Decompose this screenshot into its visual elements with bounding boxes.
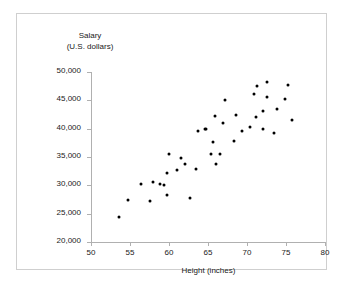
- data-point: [286, 84, 289, 87]
- y-axis-tick-label: 35,000: [57, 151, 81, 160]
- data-point: [266, 95, 269, 98]
- x-axis-tick: [130, 242, 131, 246]
- data-point: [205, 127, 208, 130]
- y-axis-title-line2: (U.S. dollars): [35, 41, 145, 52]
- x-axis-tick-label: 80: [321, 248, 330, 257]
- x-axis-title: Height (inches): [91, 266, 326, 275]
- data-point: [118, 215, 121, 218]
- data-point: [126, 198, 129, 201]
- y-axis-title-line1: Salary: [35, 30, 145, 41]
- data-point: [162, 184, 165, 187]
- x-axis-tick-label: 60: [165, 248, 174, 257]
- data-point: [214, 115, 217, 118]
- y-axis-tick: 50,000: [87, 72, 91, 73]
- y-axis-tick-label: 25,000: [57, 208, 81, 217]
- chart-figure-frame: Salary (U.S. dollars) 20,00025,00030,000…: [16, 13, 327, 270]
- data-point: [183, 162, 186, 165]
- data-point: [212, 141, 215, 144]
- data-point: [168, 152, 171, 155]
- y-axis-tick: 30,000: [87, 185, 91, 186]
- x-axis-tick: [286, 242, 287, 246]
- data-point: [149, 199, 152, 202]
- data-point: [194, 167, 197, 170]
- data-point: [175, 169, 178, 172]
- y-axis-tick-label: 45,000: [57, 94, 81, 103]
- x-axis-tick: [91, 242, 92, 246]
- data-point: [265, 80, 268, 83]
- scatter-plot-area: 20,00025,00030,00035,00040,00045,00050,0…: [91, 72, 325, 242]
- y-axis-tick-label: 30,000: [57, 179, 81, 188]
- data-point: [272, 132, 275, 135]
- y-axis-tick-label: 40,000: [57, 123, 81, 132]
- x-axis-tick: [208, 242, 209, 246]
- y-axis-tick: 25,000: [87, 214, 91, 215]
- y-axis-tick: 45,000: [87, 100, 91, 101]
- data-point: [240, 129, 243, 132]
- x-axis-tick-label: 55: [126, 248, 135, 257]
- x-axis-tick: [325, 242, 326, 246]
- data-point: [262, 128, 265, 131]
- data-point: [189, 197, 192, 200]
- data-point: [235, 113, 238, 116]
- y-axis-tick: 35,000: [87, 157, 91, 158]
- data-point: [210, 153, 213, 156]
- data-point: [151, 180, 154, 183]
- y-axis-tick-label: 50,000: [57, 66, 81, 75]
- data-point: [256, 84, 259, 87]
- data-point: [291, 119, 294, 122]
- x-axis-tick-label: 70: [243, 248, 252, 257]
- data-point: [224, 98, 227, 101]
- y-axis-tick-label: 20,000: [57, 236, 81, 245]
- x-axis-tick-label: 65: [204, 248, 213, 257]
- y-axis-tick: 40,000: [87, 129, 91, 130]
- y-axis-title: Salary (U.S. dollars): [35, 30, 145, 52]
- data-point: [221, 122, 224, 125]
- data-point: [196, 129, 199, 132]
- x-axis-tick: [169, 242, 170, 246]
- data-point: [261, 110, 264, 113]
- data-point: [254, 116, 257, 119]
- data-point: [166, 171, 169, 174]
- data-point: [232, 140, 235, 143]
- x-axis-tick-label: 75: [282, 248, 291, 257]
- data-point: [179, 157, 182, 160]
- data-point: [214, 162, 217, 165]
- data-point: [139, 182, 142, 185]
- x-axis-tick: [247, 242, 248, 246]
- data-point: [219, 152, 222, 155]
- data-point: [275, 108, 278, 111]
- x-axis-tick-label: 50: [87, 248, 96, 257]
- data-point: [284, 98, 287, 101]
- data-point: [253, 92, 256, 95]
- data-point: [165, 193, 168, 196]
- data-point: [249, 125, 252, 128]
